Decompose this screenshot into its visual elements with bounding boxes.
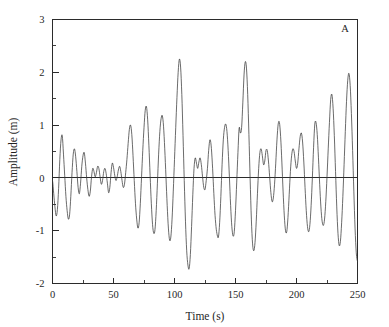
x-tick-label: 250 — [350, 289, 366, 300]
chart-svg: 050100150200250 -2-10123 Time (s) Amplit… — [0, 0, 389, 327]
y-tick-label: 3 — [39, 14, 44, 25]
x-tick-label: 100 — [167, 289, 183, 300]
x-tick-label: 0 — [50, 289, 55, 300]
x-tick-label: 200 — [289, 289, 305, 300]
x-tick-label: 150 — [228, 289, 244, 300]
y-tick-label: 2 — [39, 67, 44, 78]
figure-panel-a: 050100150200250 -2-10123 Time (s) Amplit… — [0, 0, 389, 327]
y-tick-label: 0 — [39, 173, 44, 184]
y-axis-label: Amplitude (m) — [7, 117, 20, 186]
x-axis-label: Time (s) — [186, 310, 225, 323]
y-tick-label: -1 — [36, 225, 45, 236]
y-tick-label: 1 — [39, 120, 44, 131]
x-tick-label: 50 — [108, 289, 119, 300]
y-tick-label: -2 — [36, 278, 45, 289]
panel-label-a: A — [341, 23, 349, 34]
